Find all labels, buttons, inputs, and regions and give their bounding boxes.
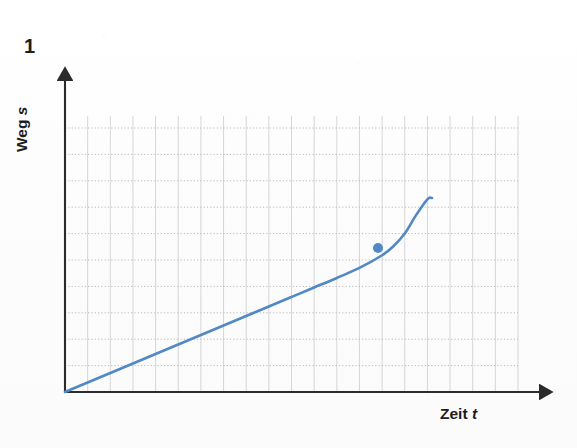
grid-vertical-lines — [65, 116, 518, 392]
data-curve — [65, 198, 432, 392]
plot-svg — [0, 0, 577, 448]
data-point-marker[interactable] — [373, 243, 383, 253]
figure-root: 1 Weg s Zeit t — [0, 0, 577, 448]
